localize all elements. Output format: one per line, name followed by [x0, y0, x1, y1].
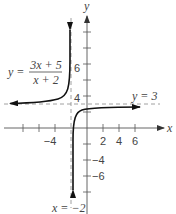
y-tick-label-4: 4: [74, 92, 80, 104]
vertical-asymptote-label: x = −2: [51, 201, 86, 214]
function-label-lhs: y =: [7, 65, 24, 79]
x-axis-label: x: [166, 121, 173, 135]
function-label-numerator: 3x + 5: [29, 58, 61, 72]
y-tick-label-6: 6: [74, 62, 80, 74]
horizontal-asymptote-label: y = 3: [131, 89, 157, 103]
rational-function-graph: x y −4 2 4 6 6 4 −4 −6 y = 3x + 5 x + 2 …: [0, 0, 176, 214]
y-axis-label: y: [83, 0, 90, 13]
x-tick-label-2: 2: [100, 135, 106, 147]
x-tick-label-6: 6: [132, 135, 138, 147]
x-tick-label-neg4: −4: [44, 135, 57, 147]
function-label-denominator: x + 2: [32, 73, 58, 87]
y-tick-label-neg4: −4: [92, 154, 105, 166]
curve-right-branch: [73, 107, 140, 190]
y-tick-label-neg6: −6: [92, 170, 105, 182]
x-tick-label-4: 4: [116, 135, 122, 147]
